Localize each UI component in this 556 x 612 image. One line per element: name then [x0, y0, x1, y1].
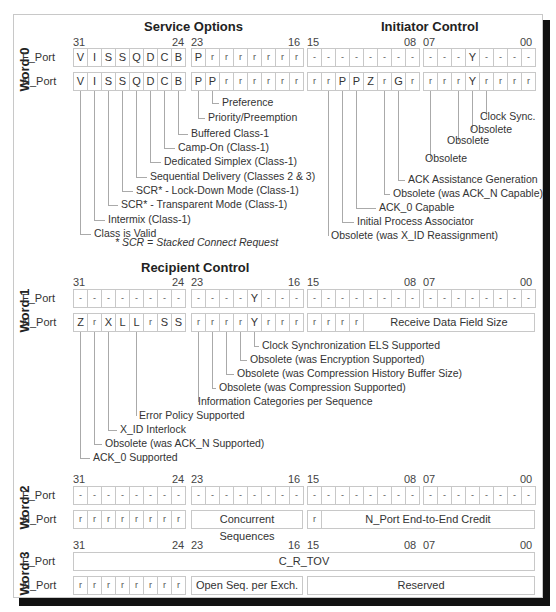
word0-n-bit-16: r — [289, 72, 304, 91]
word2-f-bit-10: - — [377, 486, 392, 505]
word0-n-bit-12: P — [349, 72, 364, 91]
word2-f-bit-17: - — [275, 486, 290, 505]
word2-n-bit-24: r — [171, 510, 186, 529]
leader-line — [198, 91, 199, 118]
leader-line — [198, 332, 199, 402]
word2-f-bit-19: - — [247, 486, 262, 505]
word0-n-bit-17: r — [275, 72, 290, 91]
word0-n-bit-9: G — [391, 72, 406, 91]
leader-line — [108, 332, 109, 430]
bit-number-24: 24 — [172, 276, 184, 288]
leader-line — [80, 91, 81, 234]
leader-line — [122, 91, 123, 191]
word2-f-bit-6: - — [437, 486, 452, 505]
leader-line — [398, 180, 405, 181]
leader-line — [80, 458, 90, 459]
bit-number-08: 08 — [404, 276, 416, 288]
word1-n-bit-14: r — [321, 313, 336, 332]
word1-f-bit-21: - — [219, 289, 234, 308]
word1-n-bit-24: S — [171, 313, 186, 332]
word0-f-bit-12: - — [349, 48, 364, 67]
word1-f-bit-8: - — [405, 289, 420, 308]
word0-n-bit-31: V — [73, 72, 88, 91]
bit-number-31: 31 — [73, 36, 85, 48]
leader-line — [164, 91, 165, 148]
word2-f-bit-27: - — [129, 486, 144, 505]
word1-n-bit-23: r — [191, 313, 206, 332]
word0-n-bit-20: r — [233, 72, 248, 91]
recipient-label-5: Error Policy Supported — [139, 409, 245, 421]
word0-f-bit-0: - — [521, 48, 536, 67]
word3-n-bit-29: r — [101, 576, 116, 595]
word2-f-bit-22: - — [205, 486, 220, 505]
word0-f-bit-17: r — [275, 48, 290, 67]
word0-f-bit-30: I — [87, 48, 102, 67]
word1-f-bit-30: - — [87, 289, 102, 308]
word1-n-bit-22: r — [205, 313, 220, 332]
bit-number-15: 15 — [307, 539, 319, 551]
leader-line — [94, 220, 105, 221]
leader-line — [384, 91, 385, 194]
word0-n-bit-3: r — [479, 72, 494, 91]
bit-number-08: 08 — [404, 36, 416, 48]
word1-f-bit-11: - — [363, 289, 378, 308]
word0-n-bit-29: S — [101, 72, 116, 91]
recipient-label-2: Obsolete (was Compression History Buffer… — [237, 367, 462, 379]
word1-f-bit-22: - — [205, 289, 220, 308]
word2-n-bit-30: r — [87, 510, 102, 529]
word1-n-bit-15: r — [307, 313, 322, 332]
word0-f-bit-31: V — [73, 48, 88, 67]
word2-f-bit-23: - — [191, 486, 206, 505]
bit-number-31: 31 — [73, 473, 85, 485]
word0-n-bit-24: B — [171, 72, 186, 91]
word1-f-bit-24: - — [171, 289, 186, 308]
word2-f-bit-5: - — [451, 486, 466, 505]
port-label-f: F_Port — [22, 489, 55, 501]
word2-n-bit-28: r — [115, 510, 130, 529]
port-label-f: F_Port — [22, 51, 55, 63]
port-label-n: N_Port — [22, 316, 56, 328]
word0-f-bit-1: - — [507, 48, 522, 67]
word-label-word2: Word 2 — [17, 478, 32, 538]
word2-f-bit-9: - — [391, 486, 406, 505]
bit-number-24: 24 — [172, 36, 184, 48]
port-label-n: N_Port — [22, 75, 56, 87]
word1-f-bit-13: - — [335, 289, 350, 308]
leader-line — [80, 332, 81, 458]
word1-n-bit-26: r — [143, 313, 158, 332]
bit-number-16: 16 — [288, 36, 300, 48]
word1-f-bit-29: - — [101, 289, 116, 308]
bit-number-07: 07 — [423, 36, 435, 48]
service-label-3: Camp-On (Class-1) — [178, 141, 269, 153]
initiator-label-3: Obsolete — [425, 152, 467, 164]
leader-line — [342, 91, 343, 222]
word2-f-bit-3: - — [479, 486, 494, 505]
bit-number-08: 08 — [404, 539, 416, 551]
word0-f-bit-2: - — [493, 48, 508, 67]
initiator-label-4: ACK Assistance Generation — [408, 173, 538, 185]
word0-n-bit-10: r — [377, 72, 392, 91]
word0-n-bit-2: r — [493, 72, 508, 91]
service-label-6: SCR* - Lock-Down Mode (Class-1) — [136, 184, 299, 196]
word2-n-bit-25: r — [157, 510, 172, 529]
word2-f-bit-11: - — [363, 486, 378, 505]
word2-n-bit-27: r — [129, 510, 144, 529]
leader-line — [136, 91, 137, 177]
leader-line — [150, 162, 161, 163]
service-label-7: SCR* - Transparent Mode (Class-1) — [121, 198, 287, 210]
leader-line — [356, 208, 376, 209]
word-label-word3: Word 3 — [17, 544, 32, 604]
word1-n-bit-16: r — [289, 313, 304, 332]
word1-f-bit-31: - — [73, 289, 88, 308]
word1-f-bit-3: - — [479, 289, 494, 308]
word1-f-bit-0: - — [521, 289, 536, 308]
word1-n-bit-29: X — [101, 313, 116, 332]
recipient-label-7: Obsolete (was ACK_N Supported) — [105, 437, 264, 449]
word1-f-bit-15: - — [307, 289, 322, 308]
word0-f-bit-24: B — [171, 48, 186, 67]
bit-number-00: 00 — [520, 36, 532, 48]
leader-line — [178, 134, 188, 135]
leader-line — [328, 91, 329, 236]
word0-f-bit-11: - — [363, 48, 378, 67]
word1-f-bit-9: - — [391, 289, 406, 308]
